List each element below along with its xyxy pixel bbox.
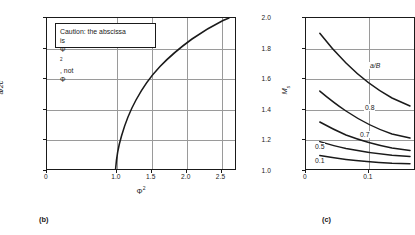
x-tick-label: 2.5: [206, 173, 236, 180]
subfigure-caption-c: (c): [322, 215, 331, 224]
y-tick-label: 1.2: [241, 136, 271, 143]
y-tick-label: 1.6: [241, 75, 271, 82]
caution-line-1: Caution: the abscissa: [60, 27, 155, 36]
caution-annotation-box: Caution: the abscissa is Φ2, not Φ: [55, 23, 156, 48]
caution-line-2: is Φ2, not Φ: [60, 36, 155, 84]
y-tick-label: 1.4: [241, 105, 271, 112]
y-axis-label-sub: s: [286, 86, 291, 88]
y-axis-label-b: a/2c: [0, 81, 5, 95]
x-tick-label: 1.5: [136, 173, 166, 180]
curve-label-0-8: 0.8: [364, 104, 375, 111]
x-tick-label: 0: [292, 173, 318, 180]
x-tick-label: 0: [31, 173, 61, 180]
curve-label-0-5: 0.5: [314, 143, 325, 150]
chart-panel-b: a/2c 0.5 0.4 0.3 0.2 0.1 0 0 1.0 1.5 2.0…: [0, 0, 255, 200]
curve-label-0-1: 0.1: [314, 157, 325, 164]
x-tick-label: 2.0: [171, 173, 201, 180]
x-tick-label: 1.0: [101, 173, 131, 180]
y-axis-label-c: Ms: [280, 86, 290, 95]
curve-label-aB: a/B: [369, 62, 381, 69]
x-axis-label-exponent: 2: [143, 185, 146, 191]
x-tick-label: 0.1: [355, 173, 381, 180]
y-tick-label: 2.0: [241, 14, 271, 21]
curve-label-0-7: 0.7: [359, 131, 370, 138]
plot-area-b: Caution: the abscissa is Φ2, not Φ: [46, 17, 236, 170]
x-axis-label-b: Φ2: [137, 185, 146, 196]
y-tick-label: 1.8: [241, 44, 271, 51]
plot-area-c: a/B 0.8 0.7 0.5 0.1: [305, 17, 415, 170]
y-tick-label: 1.0: [241, 167, 271, 174]
y-axis-label-main: M: [280, 88, 289, 94]
subfigure-caption-b: (b): [39, 215, 48, 224]
chart-panel-c: Ms 2.0 1.8 1.6 1.4 1.2 1.0 0 0.1: [283, 0, 383, 200]
